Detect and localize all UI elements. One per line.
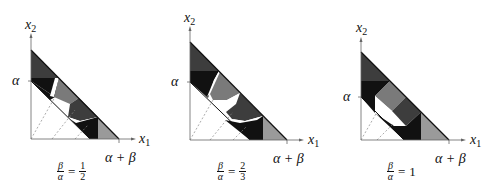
x-axis-label: x1 — [470, 133, 481, 149]
sum-tick-label: α + β — [435, 152, 466, 166]
dotted-guide-1 — [361, 112, 377, 140]
y-axis-label: x2 — [184, 11, 195, 27]
panel-ratio-two-thirds — [187, 26, 304, 144]
alpha-tick-label: α — [12, 74, 19, 88]
panel-ratio-half — [28, 33, 136, 143]
x-axis-arrow-icon — [131, 138, 136, 141]
y-axis-label: x2 — [356, 21, 367, 37]
x-axis-arrow-icon — [299, 139, 304, 142]
dotted-guide-1 — [190, 100, 213, 140]
dotted-guide-1 — [31, 97, 55, 139]
sum-tick-label: α + β — [273, 152, 304, 166]
alpha-tick-label: α — [343, 90, 350, 104]
alpha-tick-label: α — [171, 75, 178, 89]
x-axis-label: x1 — [308, 133, 319, 149]
y-axis-label: x2 — [25, 18, 36, 34]
x-axis-label: x1 — [139, 132, 150, 148]
x-axis-arrow-icon — [461, 139, 466, 142]
ratio-caption: βα = 12 — [57, 161, 86, 182]
ratio-caption: βα = 23 — [217, 161, 246, 182]
y-axis-arrow-icon — [360, 37, 363, 42]
sum-tick-label: α + β — [105, 151, 136, 165]
dotted-guide-2 — [210, 112, 233, 140]
panel-ratio-one — [358, 37, 466, 144]
ratio-caption: βα = 1 — [387, 161, 416, 182]
